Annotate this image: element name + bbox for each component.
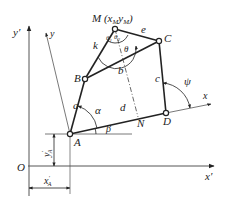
label-B: B <box>74 72 81 84</box>
label-e: e <box>141 23 146 35</box>
label-c: c <box>155 72 160 84</box>
joint-M <box>112 26 117 31</box>
label-beta: β <box>105 123 111 134</box>
label-theta2: θ2 <box>114 33 120 42</box>
label-d: d <box>120 101 126 113</box>
joint-A <box>67 131 72 136</box>
label-yA: y′A <box>41 149 53 158</box>
x-moving-axis <box>166 104 211 113</box>
label-C: C <box>164 32 172 44</box>
link-e <box>115 29 159 41</box>
label-alpha: α <box>95 104 101 116</box>
labels: O x′ y′ x y A B C D N M (xMyM) a b c d e… <box>12 12 213 187</box>
label-b: b <box>118 64 124 76</box>
label-a: a <box>73 99 79 111</box>
link-d <box>70 113 166 134</box>
label-M: M (xMyM) <box>91 12 133 26</box>
label-k: k <box>93 39 99 51</box>
label-y-prime: y′ <box>12 26 21 38</box>
label-x-prime: x′ <box>204 170 213 182</box>
link-c <box>159 41 166 113</box>
label-D: D <box>162 115 171 127</box>
linkage-diagram: O x′ y′ x y A B C D N M (xMyM) a b c d e… <box>0 0 230 209</box>
joint-C <box>156 38 161 43</box>
label-x: x <box>202 90 208 101</box>
label-psi: ψ <box>184 75 191 87</box>
label-O: O <box>17 161 25 173</box>
label-xA: x′A <box>43 175 52 187</box>
label-theta: θ <box>124 44 129 54</box>
label-N: N <box>136 117 145 129</box>
joint-B <box>82 76 87 81</box>
label-y: y <box>49 28 55 39</box>
y-moving-axis <box>46 33 70 134</box>
label-A: A <box>73 136 81 148</box>
